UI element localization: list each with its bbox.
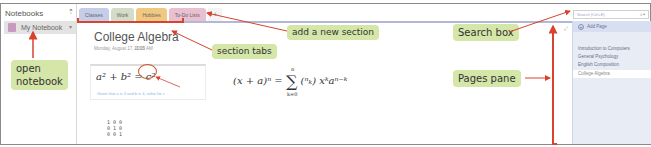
section-tabs: Classes Work Hobbies To-Do Lists +	[79, 8, 222, 21]
callout-section-tabs: section tabs	[212, 44, 277, 59]
pin-icon[interactable]: ⇡	[68, 8, 74, 16]
sigma-symbol: ∑nk=0	[286, 72, 297, 91]
notebooks-header: Notebooks	[5, 9, 43, 18]
page-item[interactable]: Introduction to Computers	[573, 45, 651, 53]
callout-open-notebook: open notebook	[11, 60, 68, 90]
pages-pane-bracket-foot	[552, 143, 557, 145]
expand-icon[interactable]: ⤢	[564, 25, 568, 32]
identity-matrix[interactable]: 1 0 0 0 1 0 0 0 1	[107, 119, 122, 137]
tabs-bracket	[77, 21, 184, 23]
page-time: 11:00 AM	[134, 46, 153, 51]
callout-pages-pane: Pages pane	[453, 70, 521, 87]
highlight-circle	[138, 64, 157, 79]
tabs-bracket-left	[77, 18, 79, 23]
notebook-item-my-notebook[interactable]: My Notebook ▾	[4, 21, 76, 34]
add-page-label: Add Page	[587, 24, 607, 29]
plus-circle-icon: +	[578, 24, 584, 30]
equation-binomial[interactable]: (x + a)ⁿ = ∑nk=0 (ⁿₖ) xᵏaⁿ⁻ᵏ	[233, 72, 347, 91]
chevron-down-icon[interactable]: ▾	[69, 23, 72, 30]
add-page-button[interactable]: + Add Page	[573, 21, 651, 32]
tab-work[interactable]: Work	[111, 8, 135, 21]
tab-to-do-lists[interactable]: To-Do Lists	[169, 8, 206, 21]
search-placeholder: Search (Ctrl+E)	[577, 12, 605, 17]
search-icon[interactable]: ⌕▾	[640, 11, 645, 18]
page-item[interactable]: English Composition	[573, 61, 651, 69]
tabs-bracket-right	[182, 18, 184, 23]
page-title[interactable]: College Algebra	[94, 30, 179, 44]
page-item[interactable]: General Psychology	[573, 53, 651, 61]
callout-add-section: add a new section	[287, 25, 379, 40]
notebook-label: My Notebook	[21, 24, 62, 31]
notebook-icon	[8, 23, 16, 32]
tab-hobbies[interactable]: Hobbies	[136, 8, 166, 21]
page-item-active[interactable]: College Algebra	[573, 70, 651, 78]
equation-hint: Given that a is 3 and b is 4, solve for …	[97, 91, 165, 96]
pages-pane: + Add Page Introduction to Computers Gen…	[572, 21, 651, 144]
callout-search-box: Search box	[453, 24, 519, 41]
sum-upper: n	[291, 66, 294, 72]
tab-classes[interactable]: Classes	[79, 8, 109, 21]
search-input[interactable]: Search (Ctrl+E) ⌕▾	[573, 10, 649, 19]
equation-right: (ⁿₖ) xᵏaⁿ⁻ᵏ	[301, 75, 348, 86]
add-section-button[interactable]: +	[208, 8, 223, 21]
pages-pane-bracket	[552, 28, 554, 145]
sum-lower: k=0	[287, 91, 297, 97]
equation-left: (x + a)ⁿ =	[233, 75, 283, 86]
